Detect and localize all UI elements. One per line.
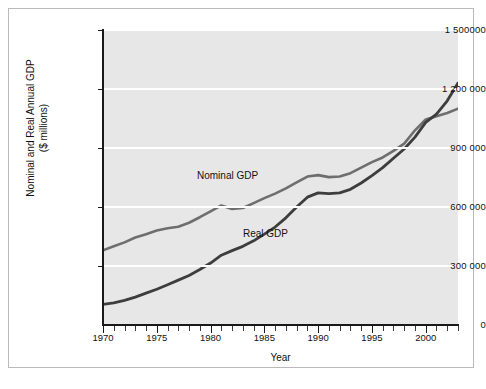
- x-tick-label: 1985: [244, 332, 284, 343]
- x-tick-minor: [243, 326, 244, 331]
- x-tick-label: 1995: [352, 332, 392, 343]
- x-tick-minor: [404, 326, 405, 331]
- y-tick: [98, 266, 103, 267]
- y-tick-label: 900 000: [391, 142, 486, 153]
- x-tick-minor: [146, 326, 147, 331]
- y-tick: [98, 30, 103, 31]
- x-tick-minor: [350, 326, 351, 331]
- x-tick-label: 1980: [191, 332, 231, 343]
- y-tick-label: 1 500000: [391, 24, 486, 35]
- x-tick-minor: [200, 326, 201, 331]
- y-tick-label: 1 200 000: [391, 83, 486, 94]
- x-tick-minor: [135, 326, 136, 331]
- x-tick-minor: [340, 326, 341, 331]
- x-tick-minor: [275, 326, 276, 331]
- x-tick-minor: [125, 326, 126, 331]
- x-tick-minor: [221, 326, 222, 331]
- x-tick-minor: [329, 326, 330, 331]
- x-tick-major: [103, 326, 104, 333]
- x-tick-major: [157, 326, 158, 333]
- y-tick-label: 0: [391, 319, 486, 330]
- y-axis-title: Nominal and Real Annual GDP ($ millions): [24, 28, 50, 228]
- chart-figure: 0300 000600 000900 0001 200 0001 500000 …: [0, 0, 486, 389]
- x-tick-major: [372, 326, 373, 333]
- x-tick-major: [211, 326, 212, 333]
- x-tick-minor: [297, 326, 298, 331]
- y-axis-title-line2: ($ millions): [37, 28, 50, 228]
- x-tick-minor: [307, 326, 308, 331]
- plot-area: [103, 30, 458, 325]
- x-tick-minor: [393, 326, 394, 331]
- x-tick-major: [426, 326, 427, 333]
- x-tick-minor: [168, 326, 169, 331]
- series-label-real-gdp: Real GDP: [243, 228, 288, 239]
- x-tick-major: [264, 326, 265, 333]
- y-axis-line: [102, 29, 104, 326]
- x-tick-label: 1975: [137, 332, 177, 343]
- x-tick-minor: [178, 326, 179, 331]
- x-tick-minor: [447, 326, 448, 331]
- x-tick-label: 2000: [406, 332, 446, 343]
- y-tick: [98, 148, 103, 149]
- x-axis-title: Year: [103, 352, 458, 363]
- x-tick-minor: [361, 326, 362, 331]
- x-tick-minor: [415, 326, 416, 331]
- x-tick-label: 1990: [298, 332, 338, 343]
- y-tick: [98, 207, 103, 208]
- gridlines: [103, 30, 458, 325]
- y-axis-title-line1: Nominal and Real Annual GDP: [24, 28, 37, 228]
- series-label-nominal-gdp: Nominal GDP: [197, 170, 258, 181]
- x-tick-major: [318, 326, 319, 333]
- x-tick-minor: [189, 326, 190, 331]
- x-tick-minor: [383, 326, 384, 331]
- x-tick-minor: [286, 326, 287, 331]
- y-tick-label: 300 000: [391, 260, 486, 271]
- x-tick-minor: [436, 326, 437, 331]
- y-tick: [98, 89, 103, 90]
- y-tick-label: 600 000: [391, 201, 486, 212]
- x-tick-minor: [458, 326, 459, 331]
- x-tick-label: 1970: [83, 332, 123, 343]
- x-tick-minor: [254, 326, 255, 331]
- x-tick-minor: [114, 326, 115, 331]
- x-tick-minor: [232, 326, 233, 331]
